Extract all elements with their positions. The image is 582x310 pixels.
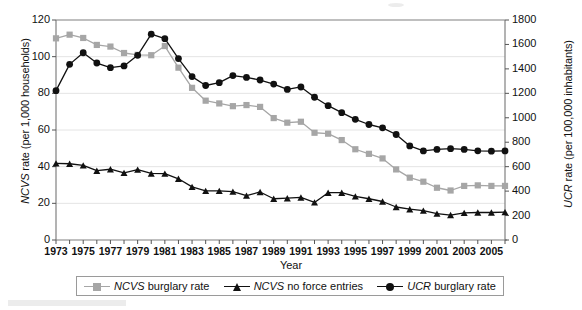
y-axis-right-tick-label: 400 xyxy=(512,185,548,196)
data-point xyxy=(379,124,386,131)
y-axis-left-tick-label: 0 xyxy=(14,234,50,245)
series-ucr-burglary-rate xyxy=(53,31,509,155)
y-axis-left-tick-label: 100 xyxy=(14,51,50,62)
data-point xyxy=(393,131,400,138)
data-point xyxy=(216,79,223,86)
y-axis-left-tick-label: 80 xyxy=(14,87,50,98)
data-point xyxy=(366,121,373,128)
legend-symbol xyxy=(233,283,241,291)
data-point xyxy=(434,185,440,191)
legend-symbol xyxy=(386,283,394,291)
data-point xyxy=(270,81,277,88)
y-axis-right-tick-label: 1800 xyxy=(512,14,548,25)
y-axis-right-title: UCR rate (per 100,000 inhabitants) xyxy=(562,19,574,229)
data-point xyxy=(189,73,196,80)
data-point xyxy=(148,31,155,38)
data-point xyxy=(407,175,413,181)
series-ncvs-burglary-rate xyxy=(53,32,508,194)
data-point xyxy=(216,100,222,106)
data-point xyxy=(461,146,468,153)
data-point xyxy=(352,116,359,123)
y-axis-right-tick-label: 1200 xyxy=(512,87,548,98)
data-point xyxy=(66,61,73,68)
square-marker-icon xyxy=(84,281,110,292)
data-point xyxy=(298,84,305,91)
data-point xyxy=(338,109,345,116)
circle-marker-icon xyxy=(377,281,403,292)
data-point xyxy=(203,98,209,104)
legend-label: NCVS no force entries xyxy=(254,280,363,292)
data-point xyxy=(189,85,195,91)
data-point xyxy=(148,52,154,58)
y-axis-left-tick-label: 40 xyxy=(14,161,50,172)
data-point xyxy=(475,182,481,188)
y-axis-right-tick-label: 800 xyxy=(512,136,548,147)
data-point xyxy=(134,52,141,59)
data-point xyxy=(53,35,59,41)
y-axis-left-tick-label: 60 xyxy=(14,124,50,135)
data-point xyxy=(80,35,86,41)
data-point xyxy=(162,43,168,49)
data-point xyxy=(257,104,263,110)
data-point xyxy=(352,146,358,152)
data-point xyxy=(230,103,236,109)
data-point xyxy=(175,176,182,182)
data-point xyxy=(461,183,467,189)
data-point xyxy=(243,74,250,81)
data-point xyxy=(257,77,264,84)
y-axis-right-tick-label: 200 xyxy=(512,210,548,221)
data-point xyxy=(488,183,494,189)
legend-item-ncvs-burglary-rate: NCVS burglary rate xyxy=(84,280,209,292)
data-point xyxy=(420,148,427,155)
x-axis-title: Year xyxy=(0,259,582,271)
legend-item-ucr-burglary-rate: UCR burglary rate xyxy=(377,280,496,292)
data-point xyxy=(393,166,399,172)
y-axis-right-tick-label: 1000 xyxy=(512,112,548,123)
data-point xyxy=(202,82,209,89)
data-point xyxy=(488,148,495,155)
data-point xyxy=(298,119,304,125)
chart-legend: NCVS burglary rateNCVS no force entriesU… xyxy=(76,276,504,296)
y-axis-right-tick-label: 600 xyxy=(512,161,548,172)
data-point xyxy=(366,151,372,157)
legend-item-ncvs-no-force-entries: NCVS no force entries xyxy=(224,280,363,292)
data-point xyxy=(434,146,441,153)
y-axis-right-tick-label: 0 xyxy=(512,234,548,245)
y-axis-left-tick-label: 20 xyxy=(14,197,50,208)
y-axis-right-tick-label: 1600 xyxy=(512,38,548,49)
figure-container: NCVS rate (per 1,000 households) UCR rat… xyxy=(0,0,582,310)
data-point xyxy=(229,72,236,79)
scan-artifact-caption xyxy=(8,300,126,306)
data-point xyxy=(406,142,413,149)
data-point xyxy=(502,183,508,189)
data-point xyxy=(311,130,317,136)
scan-artifact xyxy=(388,3,404,7)
data-point xyxy=(93,60,100,67)
series-ncvs-no-force-entries xyxy=(53,160,509,218)
data-point xyxy=(420,179,426,185)
legend-symbol xyxy=(93,283,101,291)
data-point xyxy=(379,155,385,161)
data-point xyxy=(107,43,113,49)
x-axis-tick-label: 2005 xyxy=(474,246,508,257)
data-point xyxy=(67,32,73,38)
data-point xyxy=(121,63,128,70)
data-point xyxy=(325,102,332,109)
data-point xyxy=(80,49,87,56)
legend-label: UCR burglary rate xyxy=(407,280,496,292)
data-point xyxy=(474,147,481,154)
data-point xyxy=(175,55,182,62)
legend-label: NCVS burglary rate xyxy=(114,280,209,292)
data-point xyxy=(325,131,331,137)
data-point xyxy=(175,65,181,71)
data-point xyxy=(53,87,60,94)
triangle-marker-icon xyxy=(224,281,250,292)
data-point xyxy=(447,187,453,193)
data-point xyxy=(161,35,168,42)
data-point xyxy=(189,184,196,190)
data-point xyxy=(502,148,509,155)
data-point xyxy=(447,145,454,152)
data-point xyxy=(121,50,127,56)
data-point xyxy=(284,120,290,126)
data-point xyxy=(311,94,318,101)
